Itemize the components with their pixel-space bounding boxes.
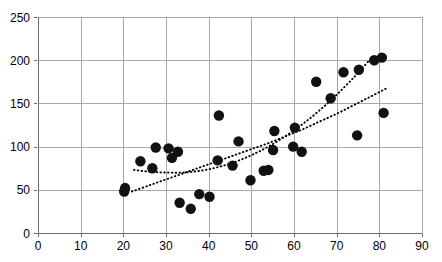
data-point (233, 136, 243, 146)
x-tick-label: 0 (35, 239, 42, 253)
grid-lines (38, 17, 423, 233)
data-point (378, 108, 388, 118)
data-point (290, 122, 300, 132)
x-tick-label: 80 (373, 239, 387, 253)
x-tick-label: 50 (245, 239, 259, 253)
data-point (214, 110, 224, 120)
data-point (268, 145, 278, 155)
data-point (204, 192, 214, 202)
chart-canvas: 0102030405060708090 050100150200250 (0, 0, 442, 262)
y-axis-tick-labels: 050100150200250 (10, 11, 37, 241)
data-point (296, 147, 306, 157)
data-point (186, 204, 196, 214)
x-tick-label: 70 (330, 239, 344, 253)
data-points (119, 52, 389, 214)
plot-area-border (39, 18, 423, 234)
data-point (212, 155, 222, 165)
data-point (227, 160, 237, 170)
data-point (269, 126, 279, 136)
x-tick-label: 20 (117, 239, 131, 253)
y-tick-label: 0 (23, 227, 30, 241)
data-point (352, 130, 362, 140)
plot-border (39, 18, 423, 234)
data-point (135, 156, 145, 166)
y-tick-label: 50 (17, 183, 31, 197)
data-point (174, 198, 184, 208)
data-point (151, 142, 161, 152)
data-point (194, 189, 204, 199)
x-tick-label: 90 (415, 239, 429, 253)
data-point (245, 175, 255, 185)
y-tick-label: 200 (10, 54, 30, 68)
data-point (120, 183, 130, 193)
data-point (163, 143, 173, 153)
y-tick-label: 100 (10, 140, 30, 154)
data-point (338, 67, 348, 77)
data-point (147, 163, 157, 173)
x-tick-label: 40 (202, 239, 216, 253)
data-point (354, 65, 364, 75)
y-tick-label: 150 (10, 97, 30, 111)
y-tick-label: 250 (10, 11, 30, 25)
data-point (325, 93, 335, 103)
x-tick-label: 10 (74, 239, 88, 253)
data-point (377, 52, 387, 62)
data-point (311, 77, 321, 87)
data-point (173, 147, 183, 157)
scatter-chart: 0102030405060708090 050100150200250 (0, 0, 442, 262)
data-point (263, 165, 273, 175)
x-tick-label: 30 (159, 239, 173, 253)
x-axis-tick-labels: 0102030405060708090 (35, 234, 429, 253)
x-tick-label: 60 (287, 239, 301, 253)
axis-lines (35, 17, 422, 236)
